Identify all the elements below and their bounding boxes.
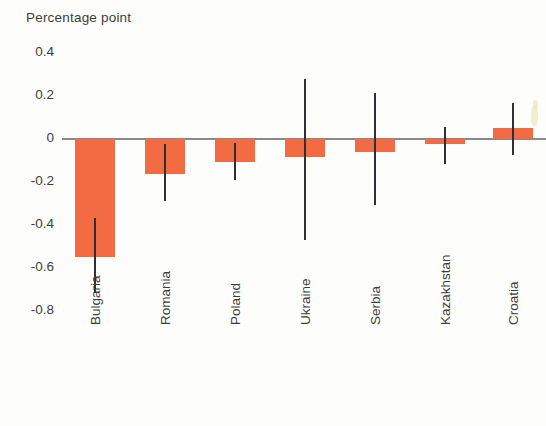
x-axis-label-romania: Romania	[158, 271, 173, 325]
error-bar-poland	[234, 143, 236, 179]
x-axis-label-poland: Poland	[228, 283, 243, 325]
error-bar-croatia	[512, 103, 514, 156]
x-axis-label-ukraine: Ukraine	[298, 278, 313, 325]
scan-artifact	[531, 106, 538, 126]
y-axis-tick-label: 0.4	[8, 44, 54, 59]
error-bar-romania	[164, 144, 166, 201]
error-bar-kazakhstan	[444, 127, 446, 163]
x-axis-label-kazakhstan: Kazakhstan	[438, 254, 453, 325]
y-axis-tick-label: -0.2	[8, 173, 54, 188]
error-bar-ukraine	[304, 79, 306, 240]
plot-area: 0.40.20-0.2-0.4-0.6-0.8BulgariaRomaniaPo…	[0, 0, 546, 426]
y-axis-tick-label: 0	[8, 130, 54, 145]
y-axis-tick-label: -0.6	[8, 259, 54, 274]
y-axis-tick-label: -0.8	[8, 302, 54, 317]
x-axis-label-serbia: Serbia	[368, 286, 383, 325]
chart-page: Percentage point 0.40.20-0.2-0.4-0.6-0.8…	[0, 0, 546, 426]
y-axis-tick-label: -0.4	[8, 216, 54, 231]
scan-artifact-secondary	[533, 100, 538, 109]
y-axis-tick-label: 0.2	[8, 87, 54, 102]
error-bar-serbia	[374, 93, 376, 206]
x-axis-label-croatia: Croatia	[506, 281, 521, 325]
x-axis-label-bulgaria: Bulgaria	[88, 275, 103, 325]
